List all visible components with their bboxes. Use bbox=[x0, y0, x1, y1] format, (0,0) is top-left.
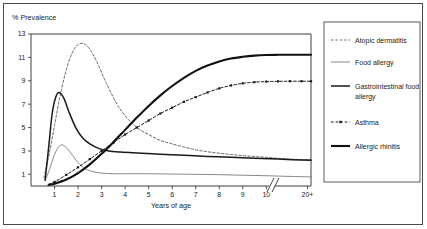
series-marker-asthma bbox=[65, 174, 67, 176]
labels-group: % PrevalenceYears of age bbox=[12, 13, 191, 210]
series-marker-asthma bbox=[124, 133, 126, 135]
series-marker-asthma bbox=[277, 80, 279, 82]
x-axis-title: Years of age bbox=[151, 201, 191, 210]
y-tick-label: 9 bbox=[22, 77, 26, 84]
series-marker-asthma bbox=[77, 166, 79, 168]
series-marker-asthma bbox=[242, 82, 244, 84]
legend-label[interactable]: Asthma bbox=[355, 119, 379, 126]
y-tick-label: 5 bbox=[22, 124, 26, 131]
y-tick-label: 1 bbox=[22, 171, 26, 178]
series-marker-asthma bbox=[195, 96, 197, 98]
x-tick-label: 3 bbox=[100, 191, 104, 198]
x-tick-label: 20+ bbox=[302, 191, 314, 198]
series-marker-asthma bbox=[230, 84, 232, 86]
series-marker-asthma bbox=[253, 81, 255, 83]
x-tick-label: 7 bbox=[194, 191, 198, 198]
y-axis-title: % Prevalence bbox=[12, 13, 56, 22]
x-tick-label: 9 bbox=[241, 191, 245, 198]
series-line-allergic-rhinitis bbox=[49, 55, 311, 185]
series-marker-asthma bbox=[218, 87, 220, 89]
series-marker-asthma bbox=[136, 126, 138, 128]
series-marker-asthma bbox=[159, 112, 161, 114]
series-line-asthma bbox=[49, 81, 311, 184]
series-marker-asthma bbox=[89, 158, 91, 160]
series-marker-asthma bbox=[183, 101, 185, 103]
legend-label[interactable]: Allergic rhinitis bbox=[355, 143, 401, 151]
series-group bbox=[44, 43, 312, 185]
figure-container: 1357911131234567891020+ % PrevalenceYear… bbox=[0, 0, 427, 229]
x-tick-label: 6 bbox=[170, 191, 174, 198]
legend-label-continued[interactable]: allergy bbox=[355, 93, 376, 101]
series-marker-asthma bbox=[300, 80, 302, 82]
y-tick-label: 13 bbox=[18, 30, 26, 37]
legend-label[interactable]: Gastrointestinal food bbox=[355, 83, 419, 90]
x-tick-label: 2 bbox=[76, 191, 80, 198]
x-tick-label: 4 bbox=[123, 191, 127, 198]
series-marker-asthma bbox=[265, 80, 267, 82]
legend-label[interactable]: Food allergy bbox=[355, 59, 394, 67]
series-marker-asthma bbox=[148, 119, 150, 121]
legend-label[interactable]: Atopic dermatitis bbox=[355, 37, 407, 45]
x-tick-label: 5 bbox=[147, 191, 151, 198]
legend-group: Atopic dermatitisFood allergyGastrointes… bbox=[324, 22, 420, 182]
x-tick-label: 8 bbox=[217, 191, 221, 198]
series-marker-asthma bbox=[310, 80, 312, 82]
y-tick-label: 7 bbox=[22, 101, 26, 108]
y-tick-label: 11 bbox=[18, 54, 25, 61]
series-marker-asthma bbox=[289, 80, 291, 82]
legend-panel bbox=[324, 22, 420, 182]
legend-marker-asthma bbox=[339, 121, 341, 123]
series-line-atopic-dermatitis bbox=[44, 43, 311, 178]
x-tick-label: 1 bbox=[53, 191, 57, 198]
series-marker-asthma bbox=[206, 91, 208, 93]
series-marker-asthma bbox=[171, 107, 173, 109]
y-tick-label: 3 bbox=[22, 147, 26, 154]
prevalence-line-chart: 1357911131234567891020+ % PrevalenceYear… bbox=[0, 0, 427, 229]
